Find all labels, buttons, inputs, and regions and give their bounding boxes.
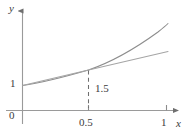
x-axis-label: x xyxy=(176,118,181,129)
annotation-label-1point5: 1.5 xyxy=(95,83,109,94)
y-axis-label: y xyxy=(9,3,14,14)
x-tick-label-1: 1 xyxy=(161,117,167,128)
origin-label: 0 xyxy=(9,110,15,121)
secant-line-series xyxy=(23,52,169,86)
plot-canvas xyxy=(0,0,187,133)
y-tick-label-1: 1 xyxy=(10,78,16,89)
x-tick-label-0point5: 0.5 xyxy=(79,117,93,128)
figure-container: y x 0 1 0.5 1 1.5 xyxy=(0,0,187,133)
curve-series xyxy=(23,24,169,86)
